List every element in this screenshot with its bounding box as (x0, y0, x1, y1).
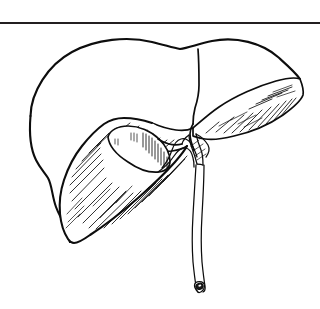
common-bile-duct-left-wall (192, 165, 198, 292)
liver-anatomy-illustration (0, 0, 320, 309)
left-lateral-segment-group (193, 78, 303, 139)
duct-junction-shadow (197, 164, 203, 165)
common-bile-duct-right-wall (201, 165, 205, 292)
common-bile-duct-group (192, 165, 205, 293)
figure-root: Liver with gallbladder and biliary tree (0, 0, 320, 309)
falciform-fold-vertical (193, 49, 199, 124)
